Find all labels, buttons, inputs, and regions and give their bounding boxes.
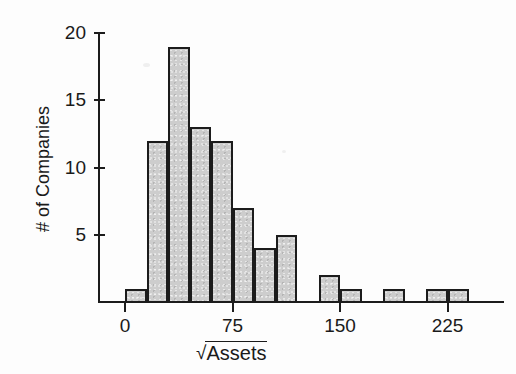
histogram-bar bbox=[276, 235, 298, 303]
x-axis-tick bbox=[232, 301, 234, 312]
y-axis-tick bbox=[94, 234, 105, 236]
x-axis-line bbox=[98, 301, 504, 303]
histogram-bar bbox=[211, 141, 233, 303]
histogram-bar bbox=[190, 127, 212, 303]
x-axis-title: √Assets bbox=[196, 342, 267, 364]
y-axis-tick-label: 20 bbox=[40, 23, 86, 42]
y-axis-tick bbox=[94, 32, 105, 34]
y-axis-tick bbox=[94, 99, 105, 101]
plot-area: 5101520 075150225 # of Companies √Assets bbox=[0, 0, 516, 374]
histogram-bar bbox=[168, 47, 190, 304]
histogram-figure: 5101520 075150225 # of Companies √Assets bbox=[0, 0, 516, 374]
histogram-bar bbox=[147, 141, 169, 303]
x-axis-tick-label: 0 bbox=[95, 316, 155, 335]
x-axis-tick bbox=[124, 301, 126, 312]
histogram-bar bbox=[319, 275, 341, 303]
y-axis-title: # of Companies bbox=[34, 79, 52, 259]
x-axis-tick bbox=[339, 301, 341, 312]
x-axis-title-text: Assets bbox=[205, 341, 267, 364]
histogram-bar bbox=[254, 248, 276, 303]
x-axis-tick bbox=[447, 301, 449, 312]
x-axis-tick-label: 75 bbox=[203, 316, 263, 335]
y-axis-tick bbox=[94, 167, 105, 169]
x-axis-tick-label: 150 bbox=[310, 316, 370, 335]
histogram-bar bbox=[233, 208, 255, 303]
x-axis-tick-label: 225 bbox=[418, 316, 478, 335]
